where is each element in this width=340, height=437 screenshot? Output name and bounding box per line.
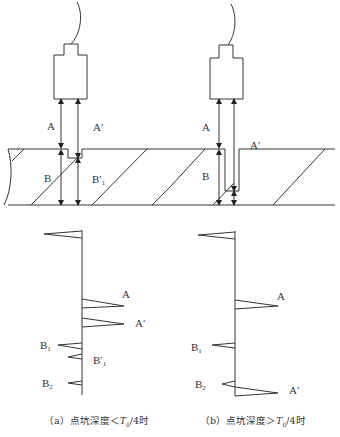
echo-a-B-prime-1: B′1: [93, 354, 107, 368]
echo-b-B2: B2: [195, 378, 206, 392]
echo-a-A: A: [122, 288, 130, 300]
label-a-A: A: [47, 120, 55, 132]
panel-b-probe: [210, 4, 243, 99]
panel-a-echo-trace: [44, 230, 124, 395]
label-b-A-prime: A′: [250, 139, 260, 151]
caption-panel-a: （a）点坑深度＜T0/4时: [44, 413, 149, 428]
echo-a-B1: B1: [40, 339, 51, 353]
echo-a-B2: B2: [42, 377, 53, 391]
ultrasonic-pit-diagram: A A′ B B′1 A A′ B A A′ B1 B′1 B2 A B1 B2…: [0, 0, 340, 437]
panel-a-probe: [54, 2, 87, 99]
label-a-B: B: [44, 172, 51, 184]
panel-b-specimen: [170, 149, 335, 205]
echo-b-A: A: [277, 290, 285, 302]
label-a-A-prime: A′: [93, 121, 103, 133]
echo-b-A-prime: A′: [289, 384, 299, 396]
label-a-B-prime-1: B′1: [92, 173, 106, 187]
panel-b-arrows: [219, 101, 234, 203]
label-b-B: B: [202, 170, 209, 182]
panel-a-specimen: [4, 149, 170, 205]
caption-panel-b: （b）点坑深度＞T0/4时: [200, 413, 306, 428]
label-b-A: A: [202, 121, 210, 133]
echo-b-B1: B1: [191, 341, 202, 355]
panel-a-arrows: [61, 101, 78, 203]
echo-a-A-prime: A′: [135, 317, 145, 329]
panel-b-echo-trace: [198, 231, 278, 396]
